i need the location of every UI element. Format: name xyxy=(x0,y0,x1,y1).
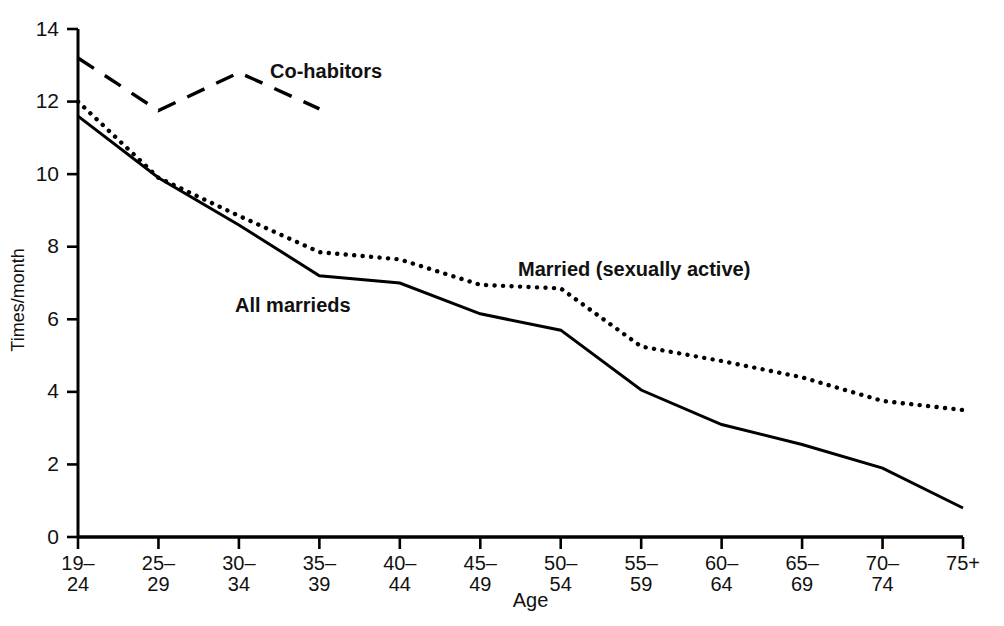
x-tick-label: 29 xyxy=(147,573,169,595)
x-tick-label: 59 xyxy=(630,573,652,595)
y-axis-tick-labels: 02468101214 xyxy=(36,17,60,548)
series-lines xyxy=(78,58,963,508)
x-tick-label: 54 xyxy=(550,573,572,595)
x-tick-label: 69 xyxy=(791,573,813,595)
x-tick-label: 30– xyxy=(222,552,256,574)
x-tick-label: 45– xyxy=(464,552,498,574)
x-tick-label: 60– xyxy=(705,552,739,574)
x-tick-label: 39 xyxy=(308,573,330,595)
y-tick-label: 8 xyxy=(47,234,59,257)
x-axis-ticks xyxy=(78,537,963,549)
x-axis-title: Age xyxy=(513,589,549,611)
x-tick-label: 64 xyxy=(711,573,733,595)
y-tick-label: 2 xyxy=(47,452,59,475)
y-tick-label: 0 xyxy=(47,525,59,548)
x-tick-label: 35– xyxy=(303,552,337,574)
x-tick-label: 25– xyxy=(142,552,176,574)
y-tick-label: 10 xyxy=(36,162,59,185)
x-tick-label: 49 xyxy=(469,573,491,595)
x-tick-label: 24 xyxy=(67,573,89,595)
series-line-married-sexually-active xyxy=(78,102,963,410)
x-tick-label: 74 xyxy=(871,573,893,595)
series-annotation-married-sexually-active: Married (sexually active) xyxy=(518,258,750,280)
x-tick-label: 75+ xyxy=(946,552,980,574)
y-tick-label: 12 xyxy=(36,89,59,112)
y-axis-title: Times/month xyxy=(8,248,28,351)
y-tick-label: 4 xyxy=(47,379,59,402)
chart-container: 02468101214 19–2425–2930–3435–3940–4445–… xyxy=(0,0,1004,626)
y-axis-ticks xyxy=(67,29,78,537)
x-tick-label: 19– xyxy=(61,552,95,574)
series-annotation-co-habitors: Co-habitors xyxy=(270,60,382,82)
x-tick-label: 40– xyxy=(383,552,417,574)
series-annotation-all-marrieds: All marrieds xyxy=(235,294,351,316)
y-tick-label: 6 xyxy=(47,307,59,330)
y-tick-label: 14 xyxy=(36,17,60,40)
series-annotations: Co-habitorsAll marriedsMarried (sexually… xyxy=(235,60,750,316)
x-tick-label: 65– xyxy=(785,552,819,574)
line-chart: 02468101214 19–2425–2930–3435–3940–4445–… xyxy=(0,0,1004,626)
x-tick-label: 34 xyxy=(228,573,250,595)
x-tick-label: 50– xyxy=(544,552,578,574)
x-tick-label: 70– xyxy=(866,552,900,574)
x-tick-label: 44 xyxy=(389,573,411,595)
series-line-all-marrieds xyxy=(78,116,963,508)
x-tick-label: 55– xyxy=(624,552,658,574)
